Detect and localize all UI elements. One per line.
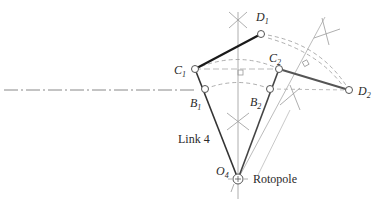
point-c1 — [192, 66, 199, 73]
right-angle-mark — [238, 70, 243, 75]
arc-c — [195, 60, 279, 70]
label-b1: B1 — [190, 96, 201, 112]
label-d1: D1 — [255, 10, 269, 26]
link4-b1-o4 — [195, 69, 238, 179]
point-d2 — [346, 87, 353, 94]
label-c1: C1 — [174, 63, 186, 79]
label-d2: D2 — [357, 84, 371, 100]
d1-bisector-guide — [258, 110, 290, 175]
line-b2-d2 — [270, 89, 349, 90]
arc-mark-d — [322, 18, 329, 45]
rotopole-diagram: D1 C1 C2 B1 B2 D2 O4 Link 4 Rotopole — [0, 0, 385, 199]
arc-mark-d2 — [290, 85, 300, 110]
arc-b — [205, 83, 270, 90]
point-d1 — [258, 31, 265, 38]
label-link4: Link 4 — [178, 132, 210, 146]
link4-b2-o4 — [238, 69, 279, 179]
point-b2 — [267, 86, 274, 93]
point-b1 — [202, 86, 209, 93]
label-o4: O4 — [216, 164, 229, 180]
label-b2: B2 — [250, 95, 261, 111]
link-c2-d2 — [279, 69, 349, 90]
label-c2: C2 — [269, 51, 281, 67]
label-rotopole: Rotopole — [253, 172, 297, 186]
right-angle-mark-2 — [302, 60, 309, 67]
link-c1-d1 — [195, 34, 261, 69]
